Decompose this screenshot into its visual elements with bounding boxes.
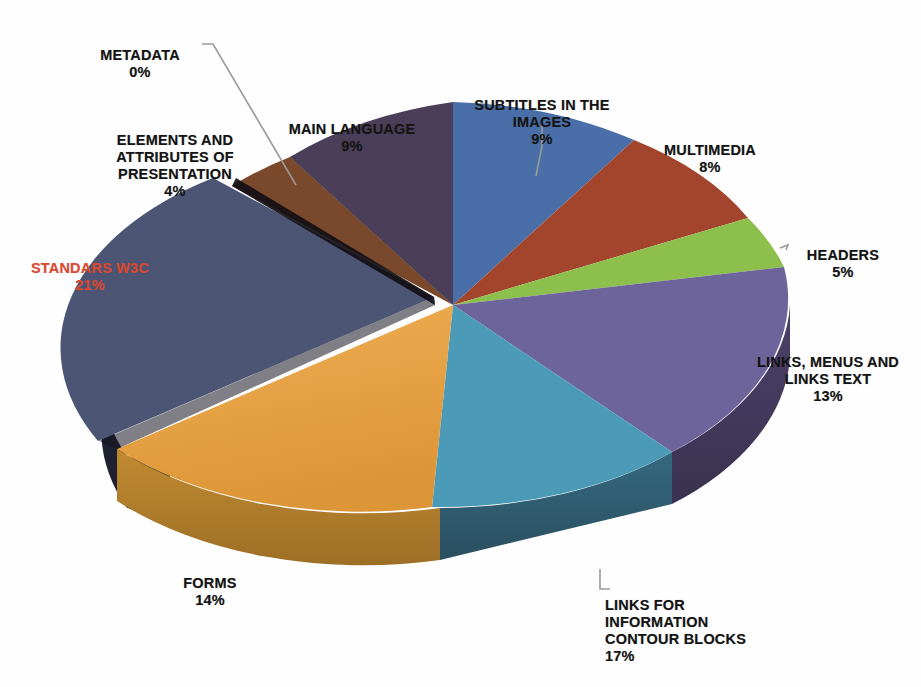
label-headers-pct: 5% [778, 264, 908, 281]
label-multimedia-pct: 8% [630, 159, 790, 176]
label-elements-pct: 4% [80, 183, 270, 200]
label-elements-name: ELEMENTS AND ATTRIBUTES OF PRESENTATION [116, 132, 234, 182]
label-main-language: MAIN LANGUAGE 9% [272, 104, 432, 172]
label-headers: HEADERS 5% [778, 230, 908, 298]
label-metadata-name: METADATA [100, 47, 180, 63]
label-standars-w3c-pct: 21% [10, 277, 170, 294]
label-links-info-name: LINKS FOR INFORMATION CONTOUR BLOCKS [605, 597, 746, 647]
label-main-language-pct: 9% [272, 138, 432, 155]
label-links-menus-and-links-text: LINKS, MENUS AND LINKS TEXT 13% [738, 337, 918, 422]
label-forms-name: FORMS [183, 575, 236, 591]
pie-chart-figure: METADATA 0% ELEMENTS AND ATTRIBUTES OF P… [0, 0, 921, 687]
label-links-info-pct: 17% [605, 648, 805, 665]
label-subtitles-in-the-images: SUBTITLES IN THE IMAGES 9% [462, 80, 622, 165]
label-headers-name: HEADERS [807, 247, 879, 263]
label-links-for-information-contour-blocks: LINKS FOR INFORMATION CONTOUR BLOCKS 17% [605, 580, 805, 682]
label-multimedia-name: MULTIMEDIA [664, 142, 756, 158]
label-forms: FORMS 14% [140, 558, 280, 626]
label-subtitles-pct: 9% [462, 131, 622, 148]
label-standars-w3c-name: STANDARS W3C [31, 260, 149, 276]
label-metadata: METADATA 0% [70, 30, 210, 98]
label-multimedia: MULTIMEDIA 8% [630, 125, 790, 193]
label-elements-and-attributes-of-presentation: ELEMENTS AND ATTRIBUTES OF PRESENTATION … [80, 115, 270, 217]
label-main-language-name: MAIN LANGUAGE [289, 121, 416, 137]
label-standars-w3c: STANDARS W3C 21% [10, 243, 170, 311]
label-links-menus-pct: 13% [738, 388, 918, 405]
label-forms-pct: 14% [140, 592, 280, 609]
label-links-menus-name: LINKS, MENUS AND LINKS TEXT [757, 354, 899, 387]
label-metadata-pct: 0% [70, 64, 210, 81]
label-subtitles-name: SUBTITLES IN THE IMAGES [474, 97, 609, 130]
